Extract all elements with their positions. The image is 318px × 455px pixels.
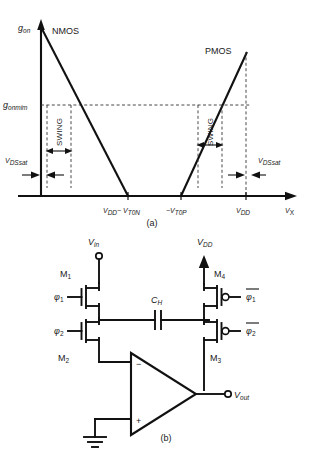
m2-label: M2 (58, 353, 70, 364)
m1-label: M1 (60, 269, 72, 280)
opamp-plus-input-label: + (136, 416, 141, 426)
caption-b: (b) (161, 433, 172, 443)
x-tick-label-vdd: VDD (236, 207, 250, 216)
phi2-label: φ2 (54, 326, 64, 337)
nmos-label: NMOS (52, 26, 79, 36)
vdd-label: VDD (197, 237, 213, 248)
y-axis-label: gon (18, 23, 31, 34)
svg-text:φ2: φ2 (246, 326, 256, 337)
vout-terminal (225, 391, 231, 397)
opamp: − + (131, 353, 196, 435)
vdssat-left-arrows (22, 172, 64, 179)
vdssat-right-arrows (228, 172, 266, 179)
x-axis (18, 192, 297, 200)
vout-label: Vout (234, 390, 250, 401)
x-axis-arrowhead (285, 192, 297, 200)
opamp-minus-input-label: − (136, 359, 141, 369)
transistor-m1 (68, 283, 99, 320)
phi2bar-label: φ2 (246, 323, 259, 337)
vdssat-left-label: VDSsat (5, 157, 29, 166)
m3-label: M3 (210, 353, 222, 364)
circuit-panel-b: Vin M1 φ1 φ2 (54, 237, 259, 447)
transistor-m2 (68, 318, 99, 362)
vin-terminal (96, 253, 102, 259)
x-tick-label-vdd-vt0n: VDD− VT0N (103, 207, 140, 216)
phi1-label: φ1 (54, 292, 64, 303)
capacitor-ch (155, 311, 209, 329)
x-axis-name: VX (285, 207, 295, 216)
ground-symbol (84, 437, 106, 447)
g-onmim-label: gonmim (3, 100, 28, 111)
figure-svg: gon gonmim NMOS PMOS SWING SWING (0, 0, 318, 455)
pmos-bubble-m3 (222, 328, 229, 335)
transistor-m4 (204, 284, 240, 320)
swing-label-right: SWING (206, 118, 215, 146)
svg-text:φ1: φ1 (246, 292, 256, 303)
caption-a: (a) (147, 218, 158, 228)
m4-label: M4 (214, 269, 226, 280)
figure-container: gon gonmim NMOS PMOS SWING SWING (0, 0, 318, 455)
vdssat-right-label: VDSsat (258, 157, 282, 166)
pmos-label: PMOS (205, 46, 232, 56)
y-axis (37, 19, 45, 196)
chart-panel-a: gon gonmim NMOS PMOS SWING SWING (3, 19, 297, 228)
swing-arrow-left (46, 148, 73, 154)
vin-label: Vin (88, 237, 99, 248)
nmos-curve (41, 27, 128, 196)
swing-label-left: SWING (55, 118, 64, 146)
x-tick-label-vt0p: −VT0P (166, 207, 187, 216)
pmos-bubble-m4 (222, 294, 229, 301)
ch-label: CH (151, 295, 163, 306)
phi1bar-label: φ1 (246, 289, 259, 303)
